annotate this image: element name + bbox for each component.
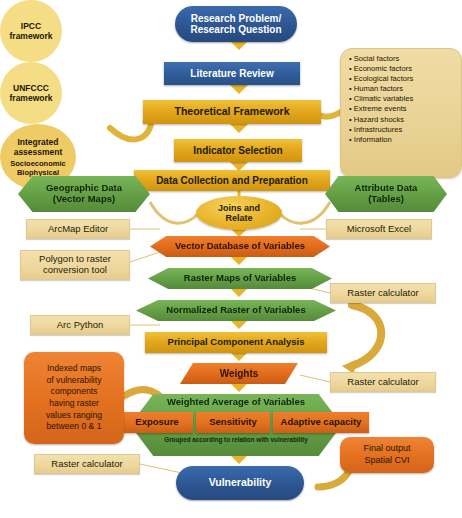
node-vulnerability[interactable]: Vulnerability [176,466,304,500]
grouping-note-label: Grouped according to relation with vulne… [164,436,307,443]
node-exposure-label: Exposure [135,417,178,428]
factors-item-label: Social factors [354,54,400,63]
node-data-collection-label: Data Collection and Preparation [156,175,308,186]
node-vector-database[interactable]: Vector Database of Variables [150,236,330,257]
node-principal-component-analysis[interactable]: Principal Component Analysis [145,332,327,353]
circle-integrated-bullet-1: Biophysical [17,168,59,177]
factors-item-label: Ecological factors [354,74,414,83]
node-indicator-selection-label: Indicator Selection [193,145,282,156]
factors-item: • Ecological factors [349,74,457,84]
tool-raster-calculator-1[interactable]: Raster calculator [330,283,436,303]
factors-item: • Climatic variables [349,94,457,104]
tool-raster-calculator-1-label: Raster calculator [347,288,418,299]
factors-item-label: Human factors [354,84,403,93]
tool-raster-calculator-3[interactable]: Raster calculator [34,454,140,474]
arrow-weighted-to-vulnerability [230,455,248,464]
node-raster-maps[interactable]: Raster Maps of Variables [148,268,332,289]
arrow-raster-to-normalized [230,288,248,297]
node-weights[interactable]: Weights [180,363,298,384]
node-raster-maps-label: Raster Maps of Variables [184,273,296,284]
node-attribute-data-label: Attribute Data (Tables) [355,183,418,204]
node-attribute-data[interactable]: Attribute Data (Tables) [325,176,447,212]
factors-item-label: Extreme events [354,104,407,113]
factors-item: • Extreme events [349,104,457,114]
node-pca-label: Principal Component Analysis [168,337,305,348]
node-research-problem[interactable]: Research Problem/ Research Question [175,6,297,42]
circle-ipcc-framework[interactable]: IPCC framework [0,0,62,62]
tool-arc-python[interactable]: Arc Python [30,315,130,335]
factors-item: • Economic factors [349,64,457,74]
arrow-theory-to-indicator [230,124,248,133]
factors-item-label: Information [354,135,392,144]
tool-polygon-to-raster-label: Polygon to raster conversion tool [39,254,111,275]
annotation-final-output[interactable]: Final output Spatial CVI [340,437,434,473]
factors-item-label: Hazard shocks [354,115,404,124]
tool-raster-calculator-3-label: Raster calculator [51,459,122,470]
node-geographic-data[interactable]: Geographic Data (Vector Maps) [18,176,150,212]
arrow-vector-to-raster [230,256,248,265]
factors-item: • Hazard shocks [349,115,457,125]
node-literature-review-label: Literature Review [190,68,273,79]
factors-item-label: Climatic variables [354,94,414,103]
node-joins-and-relate[interactable]: Joins and Relate [196,196,282,230]
node-normalized-raster-label: Normalized Raster of Variables [166,305,305,316]
factors-item: • Infrastructures [349,125,457,135]
factors-list: • Social factors • Economic factors • Ec… [349,54,457,145]
node-normalized-raster[interactable]: Normalized Raster of Variables [136,300,336,321]
node-sensitivity[interactable]: Sensitivity [196,412,270,433]
node-sensitivity-label: Sensitivity [209,417,257,428]
node-weights-label: Weights [220,368,259,379]
node-joins-and-relate-label: Joins and Relate [218,203,260,223]
node-indicator-selection[interactable]: Indicator Selection [174,139,302,162]
tool-polygon-to-raster[interactable]: Polygon to raster conversion tool [20,250,130,280]
node-weighted-average-label: Weighted Average of Variables [167,397,305,408]
node-research-problem-label: Research Problem/ Research Question [190,13,281,35]
node-data-collection[interactable]: Data Collection and Preparation [134,170,330,191]
node-theoretical-framework[interactable]: Theoretical Framework [143,100,321,124]
node-geographic-data-label: Geographic Data (Vector Maps) [46,183,122,204]
node-vector-database-label: Vector Database of Variables [175,241,305,252]
tool-microsoft-excel[interactable]: Microsoft Excel [326,219,432,239]
circle-integrated-label: Integrated assessment [14,137,63,157]
tool-arc-python-label: Arc Python [57,320,103,331]
factors-item: • Human factors [349,84,457,94]
node-vulnerability-label: Vulnerability [209,477,272,489]
node-theoretical-framework-label: Theoretical Framework [175,106,290,118]
node-adaptive-capacity[interactable]: Adaptive capacity [273,412,369,433]
arrow-research-to-lit [230,41,248,50]
node-exposure[interactable]: Exposure [121,412,193,433]
arrow-weights-to-weighted [230,383,248,392]
panel-factors: • Social factors • Economic factors • Ec… [340,48,462,178]
circle-unfccc-framework[interactable]: UNFCCC framework [0,62,62,124]
tool-arcmap-editor-label: ArcMap Editor [48,224,108,235]
tool-raster-calculator-2[interactable]: Raster calculator [330,372,436,392]
annotation-final-output-label: Final output Spatial CVI [363,443,410,466]
tool-arcmap-editor[interactable]: ArcMap Editor [26,219,130,239]
node-adaptive-capacity-label: Adaptive capacity [281,417,362,428]
tool-microsoft-excel-label: Microsoft Excel [347,224,411,235]
grouping-note: Grouped according to relation with vulne… [133,434,339,446]
tool-raster-calculator-2-label: Raster calculator [347,377,418,388]
node-literature-review[interactable]: Literature Review [164,62,300,85]
arrow-pca-to-weights [230,352,248,361]
arrow-lit-to-theory [230,85,248,94]
arrow-normalized-to-pca [230,320,248,329]
factors-item: • Information [349,135,457,145]
factors-item-label: Infrastructures [354,125,403,134]
annotation-indexed-maps-label: Indexed maps of vulnerability components… [46,363,102,433]
factors-item-label: Economic factors [354,64,412,73]
factors-item: • Social factors [349,54,457,64]
circle-ipcc-label: IPCC framework [10,21,53,41]
circle-unfccc-label: UNFCCC framework [10,83,53,103]
circle-integrated-bullet-0: Socioeconomic [10,159,65,168]
annotation-indexed-maps[interactable]: Indexed maps of vulnerability components… [24,352,124,444]
